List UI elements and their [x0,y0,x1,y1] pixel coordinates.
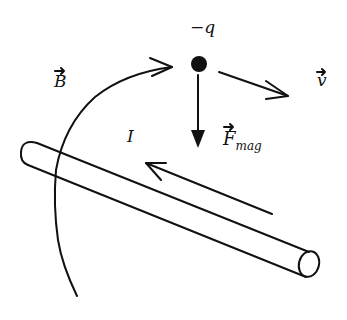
current-label: I [126,126,134,146]
force-label: Fmag [222,128,262,153]
wire [21,142,322,279]
charge-label: −q [190,17,215,37]
velocity-shaft [219,72,288,96]
field-label: B [53,71,67,91]
wire-top-edge [37,143,309,252]
field-curve [55,67,172,296]
current-arrow [146,163,272,214]
current-shaft [146,163,272,214]
magnetic-field-line [55,58,172,296]
negative-charge [191,56,207,72]
current-arrowhead-icon [146,163,166,180]
physics-diagram: −q v Fmag B I [0,0,347,320]
wire-bottom-edge [28,165,306,277]
force-arrowhead-icon [191,130,205,148]
magnetic-force-vector [191,75,205,148]
wire-left-end [21,142,37,165]
velocity-vector [219,72,288,99]
